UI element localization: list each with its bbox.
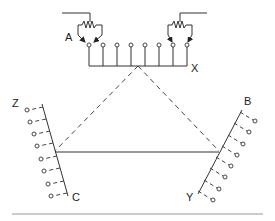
label-c: C <box>72 191 80 203</box>
dashed-link-left <box>55 66 138 151</box>
right-rheostat-icon <box>168 13 207 42</box>
left-rail <box>42 104 68 196</box>
label-a: A <box>65 31 73 43</box>
left-terminal-bank: Z C <box>12 97 80 203</box>
connection-diagram: A X Z C <box>0 0 275 221</box>
top-switch-bank: A X <box>62 13 207 74</box>
top-terminals <box>87 43 189 66</box>
label-x: X <box>191 62 199 74</box>
label-z: Z <box>12 97 19 109</box>
label-b: B <box>244 95 251 107</box>
right-terminal-bank: B Y <box>186 95 257 203</box>
right-rail-terminals <box>198 112 257 202</box>
dashed-link-right <box>138 66 219 151</box>
label-y: Y <box>186 191 194 203</box>
